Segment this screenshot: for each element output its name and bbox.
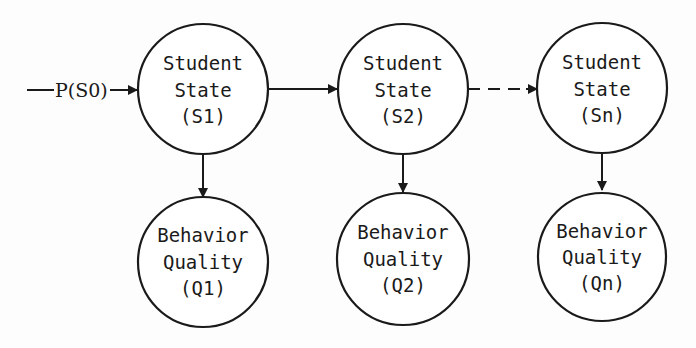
- observation-line1: Behavior: [357, 221, 449, 243]
- observation-node-q2: Behavior Quality (Q2): [337, 193, 469, 325]
- state-line1: Student: [363, 52, 443, 74]
- state-line3: (S1): [180, 105, 226, 127]
- observation-line1: Behavior: [157, 224, 249, 246]
- state-chain-diagram: P(S0) Student State (S1) Student State (…: [0, 0, 696, 348]
- state-line3: (Sn): [579, 104, 625, 126]
- observation-line3: (Q1): [180, 277, 226, 299]
- observation-node-qn: Behavior Quality (Qn): [538, 193, 666, 321]
- observation-line2: Quality: [562, 246, 642, 268]
- state-line2: State: [573, 78, 630, 100]
- state-node-s1: Student State (S1): [138, 24, 268, 154]
- observation-line1: Behavior: [556, 220, 648, 242]
- state-line1: Student: [163, 52, 243, 74]
- observation-line2: Quality: [163, 251, 243, 273]
- state-line2: State: [374, 79, 431, 101]
- state-line2: State: [174, 79, 231, 101]
- state-line3: (S2): [380, 105, 426, 127]
- initial-edge: P(S0): [27, 79, 137, 101]
- observation-line3: (Q2): [380, 274, 426, 296]
- state-node-sn: Student State (Sn): [537, 23, 667, 153]
- observation-line3: (Qn): [579, 272, 625, 294]
- diagram-canvas: P(S0) Student State (S1) Student State (…: [0, 0, 696, 348]
- observation-node-q1: Behavior Quality (Q1): [138, 197, 268, 327]
- state-node-s2: Student State (S2): [338, 24, 468, 154]
- state-line1: Student: [562, 51, 642, 73]
- observation-line2: Quality: [363, 248, 443, 270]
- initial-label: P(S0): [55, 79, 108, 101]
